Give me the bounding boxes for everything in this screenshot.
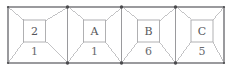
outer-frame-layer [8,7,224,63]
diagram-svg: 21A1B6C5 [0,0,233,70]
vertex-dot [120,5,123,8]
cell-diagonal-tr [106,7,122,20]
cell-diagonal-bl [8,42,24,63]
cell-diagonal-tl [122,7,138,20]
cell-label-2: A [90,25,100,38]
cells-layer [8,7,224,63]
cell-diagonal-br [106,42,122,63]
cell-diagonal-tr [160,7,176,20]
cell-diagonal-tl [176,7,192,20]
vertex-dot [66,5,69,8]
vertex-dot [7,6,9,8]
cell-diagonal-tl [68,7,84,20]
cell-weight-3: 6 [145,45,152,58]
cell-diagonal-br [213,42,224,63]
cell-diagonal-tr [213,7,224,20]
vertex-dot [223,62,225,64]
vertex-dot [66,61,69,64]
cell-diagonal-tr [46,7,68,20]
cell-weight-2: 1 [91,45,98,58]
cell-label-3: B [144,25,152,38]
vertex-dot [7,62,9,64]
diagram-root: 21A1B6C5 [0,0,233,70]
cell-diagonal-bl [68,42,84,63]
cell-diagonal-bl [122,42,138,63]
cell-diagonal-bl [176,42,192,63]
cell-label-1: 2 [31,25,38,38]
cell-diagonal-br [46,42,68,63]
vertex-dot [223,6,225,8]
cell-weight-1: 1 [31,45,38,58]
cell-diagonal-br [160,42,176,63]
cell-label-4: C [198,25,206,38]
cell-diagonal-tl [8,7,24,20]
vertex-dot [120,61,123,64]
vertex-dot [174,5,177,8]
vertex-dot [174,61,177,64]
cell-weight-4: 5 [199,45,206,58]
